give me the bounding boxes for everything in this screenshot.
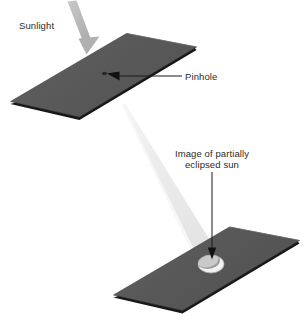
label-sunlight: Sunlight [19, 20, 54, 31]
pinhole-eclipse-diagram: Sunlight Pinhole Image of partiallyeclip… [0, 0, 305, 322]
label-eclipsed-sun-line-1: Image of partially [160, 148, 264, 159]
sunlight-arrow-icon [68, 1, 100, 55]
label-eclipsed-sun-image: Image of partiallyeclipsed sun [160, 148, 264, 170]
label-eclipsed-sun-line-2: eclipsed sun [160, 159, 264, 170]
upper-board [11, 34, 197, 121]
label-pinhole: Pinhole [185, 71, 217, 82]
pinhole-marker-icon [102, 72, 107, 75]
